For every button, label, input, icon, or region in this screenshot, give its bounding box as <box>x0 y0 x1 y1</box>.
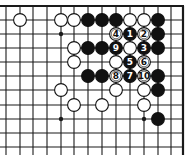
move-number: 6 <box>141 57 147 67</box>
move-number: 8 <box>113 71 119 81</box>
white-stone <box>138 14 151 27</box>
white-stone <box>96 99 109 112</box>
stone-icon <box>68 14 81 27</box>
move-number: 2 <box>141 29 147 39</box>
stone-icon <box>110 56 123 69</box>
white-stone <box>124 14 137 27</box>
stones: 41293568710 <box>14 14 165 126</box>
move-number: 5 <box>127 57 133 67</box>
white-stone: 4 <box>110 28 123 41</box>
white-stone <box>68 42 81 55</box>
white-stone <box>14 14 27 27</box>
stone-icon <box>68 99 81 112</box>
stone-icon <box>55 84 68 97</box>
stone-icon <box>14 14 27 27</box>
black-stone: 3 <box>138 42 151 55</box>
white-stone <box>110 84 123 97</box>
white-stone <box>124 42 137 55</box>
stone-icon <box>110 14 123 27</box>
white-stone <box>55 14 68 27</box>
move-number: 3 <box>141 43 147 53</box>
white-stone <box>55 84 68 97</box>
move-number: 7 <box>127 71 133 81</box>
stone-icon <box>152 42 165 55</box>
black-stone: 5 <box>124 56 137 69</box>
stone-icon <box>152 70 165 83</box>
stone-icon <box>82 14 95 27</box>
black-stone <box>82 70 95 83</box>
go-board: 41293568710 <box>0 0 187 165</box>
black-stone <box>152 70 165 83</box>
white-stone <box>138 84 151 97</box>
stone-icon <box>82 42 95 55</box>
white-stone <box>110 56 123 69</box>
black-stone <box>152 113 165 126</box>
white-stone: 2 <box>138 28 151 41</box>
black-stone <box>152 28 165 41</box>
black-stone <box>96 70 109 83</box>
star-point-icon <box>59 32 63 36</box>
white-stone: 6 <box>138 56 151 69</box>
star-point-icon <box>142 117 146 121</box>
black-stone: 7 <box>124 70 137 83</box>
stone-icon <box>152 84 165 97</box>
stone-icon <box>68 56 81 69</box>
star-point-icon <box>59 117 63 121</box>
stone-icon <box>124 14 137 27</box>
black-stone <box>152 42 165 55</box>
move-number: 1 <box>127 29 133 39</box>
stone-icon <box>96 70 109 83</box>
black-stone <box>96 42 109 55</box>
move-number: 9 <box>113 43 119 53</box>
white-stone: 10 <box>138 70 151 83</box>
white-stone <box>138 99 151 112</box>
stone-icon <box>138 14 151 27</box>
white-stone <box>68 14 81 27</box>
stone-icon <box>124 42 137 55</box>
white-stone: 8 <box>110 70 123 83</box>
stone-icon <box>96 14 109 27</box>
move-number: 4 <box>113 29 119 39</box>
move-number: 10 <box>138 71 151 81</box>
stone-icon <box>138 84 151 97</box>
black-stone <box>96 14 109 27</box>
stone-icon <box>138 99 151 112</box>
stone-icon <box>82 70 95 83</box>
black-stone: 1 <box>124 28 137 41</box>
stone-icon <box>96 99 109 112</box>
stone-icon <box>96 42 109 55</box>
stone-icon <box>152 113 165 126</box>
black-stone <box>82 42 95 55</box>
white-stone <box>68 99 81 112</box>
black-stone <box>152 14 165 27</box>
black-stone <box>110 14 123 27</box>
black-stone <box>82 14 95 27</box>
stone-icon <box>152 28 165 41</box>
black-stone <box>152 84 165 97</box>
black-stone: 9 <box>110 42 123 55</box>
stone-icon <box>55 14 68 27</box>
go-board-diagram: 41293568710 <box>0 0 187 165</box>
white-stone <box>68 56 81 69</box>
stone-icon <box>152 14 165 27</box>
stone-icon <box>68 42 81 55</box>
stone-icon <box>110 84 123 97</box>
